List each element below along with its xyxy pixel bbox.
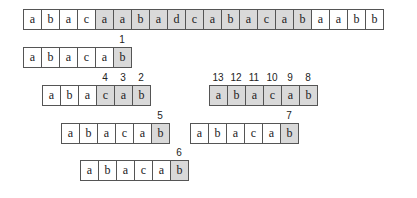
char-cell: a: [97, 123, 116, 144]
char-cell: a: [152, 160, 171, 181]
step-number-label: [79, 110, 97, 121]
step-number-label: 13: [209, 72, 227, 83]
step-number-label: 1: [113, 34, 131, 45]
step-number-label: 2: [132, 72, 150, 83]
step-number-label: 7: [280, 110, 298, 121]
char-cell: b: [299, 85, 318, 106]
step-number-label: [190, 110, 208, 121]
pattern-row-5: abacab: [190, 123, 299, 144]
char-cell: a: [23, 47, 42, 68]
char-cell: b: [98, 160, 117, 181]
step-number-label: [77, 34, 95, 45]
char-cell: a: [329, 9, 348, 30]
char-cell: b: [41, 47, 60, 68]
char-cell: a: [133, 123, 152, 144]
char-cell: a: [61, 123, 80, 144]
char-cell: b: [347, 9, 366, 30]
char-cell: a: [59, 9, 78, 30]
char-cell: a: [311, 9, 330, 30]
char-cell: a: [149, 9, 168, 30]
pattern-2-labels: 432: [42, 72, 150, 83]
char-cell: a: [42, 85, 61, 106]
pattern-3-labels: 1312111098: [209, 72, 317, 83]
char-cell: b: [293, 9, 312, 30]
step-number-label: [59, 34, 77, 45]
pattern-row-1: abacab: [23, 47, 132, 68]
char-cell: a: [59, 47, 78, 68]
char-cell: c: [134, 160, 153, 181]
step-number-label: [60, 72, 78, 83]
char-cell: a: [203, 9, 222, 30]
char-cell: c: [257, 9, 276, 30]
char-cell: c: [244, 123, 263, 144]
char-cell: c: [96, 85, 115, 106]
char-cell: b: [41, 9, 60, 30]
step-number-label: [152, 147, 170, 158]
step-number-label: [262, 110, 280, 121]
step-number-label: [115, 110, 133, 121]
pattern-row-4: abacab: [61, 123, 170, 144]
step-number-label: 4: [96, 72, 114, 83]
char-cell: a: [226, 123, 245, 144]
char-cell: b: [365, 9, 384, 30]
step-number-label: 12: [227, 72, 245, 83]
char-cell: d: [167, 9, 186, 30]
step-number-label: 10: [263, 72, 281, 83]
step-number-label: [116, 147, 134, 158]
step-number-label: [61, 110, 79, 121]
char-cell: c: [77, 9, 96, 30]
char-cell: c: [185, 9, 204, 30]
pattern-row-2: abacab: [42, 85, 151, 106]
char-cell: b: [113, 47, 132, 68]
step-number-label: [208, 110, 226, 121]
char-cell: a: [113, 9, 132, 30]
char-cell: a: [116, 160, 135, 181]
step-number-label: [226, 110, 244, 121]
step-number-label: 8: [299, 72, 317, 83]
step-number-label: [98, 147, 116, 158]
step-number-label: [23, 34, 41, 45]
pattern-6-labels: 6: [80, 147, 188, 158]
char-cell: a: [239, 9, 258, 30]
char-cell: a: [245, 85, 264, 106]
char-cell: b: [132, 85, 151, 106]
char-cell: a: [190, 123, 209, 144]
char-cell: a: [95, 9, 114, 30]
step-number-label: [97, 110, 115, 121]
step-number-label: [244, 110, 262, 121]
pattern-5-labels: 7: [190, 110, 298, 121]
step-number-label: [80, 147, 98, 158]
char-cell: a: [78, 85, 97, 106]
step-number-label: 11: [245, 72, 263, 83]
char-cell: a: [281, 85, 300, 106]
step-number-label: 9: [281, 72, 299, 83]
char-cell: b: [221, 9, 240, 30]
step-number-label: 5: [151, 110, 169, 121]
char-cell: a: [114, 85, 133, 106]
char-cell: b: [151, 123, 170, 144]
step-number-label: [95, 34, 113, 45]
char-cell: a: [95, 47, 114, 68]
char-cell: c: [77, 47, 96, 68]
char-cell: b: [60, 85, 79, 106]
step-number-label: [41, 34, 59, 45]
char-cell: b: [227, 85, 246, 106]
pattern-row-3: abacab: [209, 85, 318, 106]
char-cell: c: [115, 123, 134, 144]
step-number-label: 6: [170, 147, 188, 158]
char-cell: a: [23, 9, 42, 30]
step-number-label: 3: [114, 72, 132, 83]
char-cell: b: [208, 123, 227, 144]
char-cell: b: [131, 9, 150, 30]
char-cell: b: [280, 123, 299, 144]
text-row: abacaabadcabacabaabb: [23, 9, 384, 30]
char-cell: b: [79, 123, 98, 144]
step-number-label: [133, 110, 151, 121]
pattern-1-labels: 1: [23, 34, 131, 45]
char-cell: a: [209, 85, 228, 106]
char-cell: a: [262, 123, 281, 144]
step-number-label: [78, 72, 96, 83]
step-number-label: [42, 72, 60, 83]
step-number-label: [134, 147, 152, 158]
pattern-4-labels: 5: [61, 110, 169, 121]
